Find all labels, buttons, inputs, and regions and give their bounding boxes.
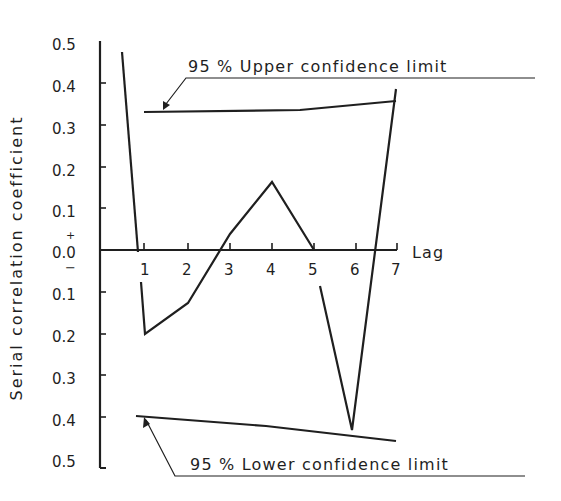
x-tick-label: 3 [224, 261, 234, 279]
upper-arrowhead-icon [163, 101, 170, 110]
lower-confidence-limit-line [136, 416, 396, 441]
x-axis-title: Lag [412, 243, 444, 262]
y-tick-label: 0.5 [52, 453, 76, 471]
positive-sign-label: + [66, 229, 75, 242]
upper-annotation-leader [166, 78, 535, 104]
y-tick-label: 0.3 [52, 120, 76, 138]
x-tick-label: 1 [140, 261, 150, 279]
y-tick-label: 0.4 [52, 412, 76, 430]
x-tick-label: 7 [391, 261, 401, 279]
series-segment-b [141, 182, 314, 334]
series-segment-a [122, 52, 138, 252]
x-tick-label: 2 [182, 261, 192, 279]
y-tick-label: 0.5 [52, 36, 76, 54]
upper-confidence-annotation: 95 % Upper confidence limit [188, 57, 448, 76]
y-tick-label: 0.1 [52, 286, 76, 304]
y-tick-labels: 0.5 0.4 0.3 0.2 0.1 0.0 0.1 0.2 0.3 0.4 … [52, 36, 76, 471]
series-segment-c [320, 89, 396, 430]
x-tick-label: 5 [308, 261, 318, 279]
x-tick-label: 6 [350, 261, 360, 279]
x-tick-labels: 1 2 3 4 5 6 7 [140, 261, 401, 279]
y-tick-label: 0.2 [52, 328, 76, 346]
upper-confidence-limit-line [144, 101, 396, 112]
y-tick-label: 0.3 [52, 370, 76, 388]
y-axis-title: Serial correlation coefficient [7, 116, 26, 401]
x-tick-label: 4 [266, 261, 276, 279]
correlogram-chart: 0.5 0.4 0.3 0.2 0.1 0.0 0.1 0.2 0.3 0.4 … [0, 0, 561, 501]
negative-sign-label: − [65, 260, 76, 275]
y-tick-label: 0.4 [52, 78, 76, 96]
y-tick-label: 0.2 [52, 162, 76, 180]
y-tick-label: 0.1 [52, 203, 76, 221]
lower-confidence-annotation: 95 % Lower confidence limit [190, 455, 449, 474]
